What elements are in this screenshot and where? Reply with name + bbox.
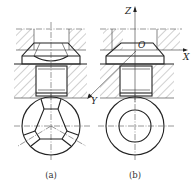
z-axis-label: Z <box>124 6 132 16</box>
inner-cylinder <box>36 66 67 96</box>
inner-cylinder <box>120 66 152 96</box>
caption-a: (a) <box>45 170 57 180</box>
x-axis-label: X <box>182 52 190 62</box>
hatch-region <box>67 64 87 98</box>
caption-b: (b) <box>129 170 141 180</box>
view-a-plan <box>14 94 90 160</box>
hatch-region <box>152 64 174 98</box>
hatch-region <box>100 64 120 98</box>
y-axis-label: Y <box>91 96 98 106</box>
view-b-plan <box>98 94 174 160</box>
hatch-region <box>14 64 36 98</box>
view-b-section <box>87 6 188 102</box>
hatch-region <box>158 29 180 50</box>
z-axis-arrow-icon <box>133 6 137 12</box>
technical-drawing: Z X O Y (a) (b) <box>0 0 195 189</box>
hatch-region <box>16 29 34 50</box>
origin-label: O <box>138 40 146 50</box>
view-a-section <box>14 22 87 102</box>
hatch-region <box>103 29 123 50</box>
